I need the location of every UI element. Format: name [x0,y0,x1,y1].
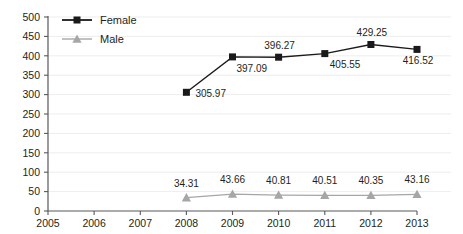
data-point-marker [414,46,421,53]
y-axis-tick-label: 500 [22,11,40,23]
y-axis-tick-label: 0 [34,205,40,217]
x-axis-ticks: 200520062007200820092010201120122013 [36,211,429,229]
data-point-label: 40.81 [266,175,291,186]
x-axis-tick-label: 2009 [221,217,245,229]
x-axis-tick-label: 2006 [82,217,106,229]
data-point-label: 40.35 [358,175,383,186]
y-axis-tick-label: 50 [28,185,40,197]
series-layer [182,41,422,201]
data-labels-layer: 305.97397.09396.27405.55429.25416.5234.3… [174,27,434,189]
data-point-marker [74,17,81,24]
x-axis-tick-label: 2005 [36,217,60,229]
data-point-label: 416.52 [403,55,434,66]
y-axis-tick-label: 300 [22,88,40,100]
data-point-label: 34.31 [174,178,199,189]
legend-label: Female [100,14,137,26]
data-point-marker [229,53,236,60]
series-line-male [186,194,417,198]
data-point-label: 305.97 [195,88,226,99]
x-axis-tick-label: 2013 [405,217,429,229]
y-axis-tick-label: 200 [22,127,40,139]
y-axis-tick-label: 450 [22,30,40,42]
data-point-label: 40.51 [312,175,337,186]
x-axis-tick-label: 2008 [175,217,199,229]
x-axis-tick-label: 2011 [314,217,337,229]
y-axis-ticks: 050100150200250300350400450500 [22,11,48,217]
x-axis-tick-label: 2010 [267,217,291,229]
data-point-label: 43.66 [220,174,245,185]
data-point-marker [321,50,328,57]
data-point-label: 405.55 [330,59,361,70]
data-point-marker [183,89,190,96]
x-axis-tick-label: 2007 [129,217,153,229]
data-point-label: 396.27 [264,40,295,51]
data-point-marker [367,41,374,48]
y-axis-tick-label: 150 [22,147,40,159]
legend-label: Male [100,33,124,45]
y-axis-tick-label: 250 [22,108,40,120]
data-point-label: 43.16 [404,174,429,185]
y-axis-tick-label: 100 [22,166,40,178]
x-axis-tick-label: 2012 [359,217,383,229]
data-point-marker [275,54,282,61]
chart-canvas: 050100150200250300350400450500 200520062… [0,0,463,234]
series-line-female [186,45,417,93]
y-axis-tick-label: 350 [22,69,40,81]
data-point-label: 397.09 [237,63,268,74]
line-chart: 050100150200250300350400450500 200520062… [0,0,463,234]
chart-legend: FemaleMale [62,14,137,45]
y-axis-tick-label: 400 [22,50,40,62]
data-point-label: 429.25 [357,27,388,38]
